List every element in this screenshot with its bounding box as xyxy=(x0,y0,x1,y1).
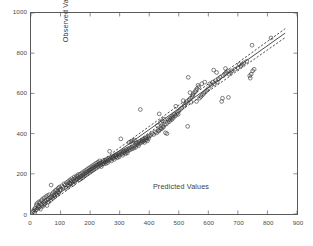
data-point xyxy=(215,71,219,75)
data-point xyxy=(195,100,199,104)
y-tick-label: 1000 xyxy=(13,9,27,15)
y-tick-label: 400 xyxy=(16,131,27,137)
data-point xyxy=(49,183,53,187)
data-point xyxy=(250,43,254,47)
x-tick-label: 800 xyxy=(263,220,274,226)
x-tick-label: 700 xyxy=(233,220,244,226)
x-tick-label: 100 xyxy=(54,220,65,226)
plot-frame: Predicted Values Observed Values xyxy=(30,12,298,215)
data-point xyxy=(227,96,231,100)
y-tick-label: 200 xyxy=(16,171,27,177)
y-tick-label: 600 xyxy=(16,90,27,96)
x-tick-label: 300 xyxy=(114,220,125,226)
x-tick-label: 500 xyxy=(174,220,185,226)
scatter-plot-figure: Predicted Values Observed Values 0100200… xyxy=(0,0,313,246)
data-point xyxy=(203,80,207,84)
x-tick-label: 0 xyxy=(28,220,32,226)
x-tick-label: 900 xyxy=(293,220,304,226)
y-tick-label: 0 xyxy=(23,212,27,218)
data-point xyxy=(108,149,112,153)
x-tick-label: 600 xyxy=(203,220,214,226)
data-point xyxy=(224,67,228,71)
y-tick-label: 800 xyxy=(16,49,27,55)
data-point xyxy=(157,112,161,116)
x-tick-label: 200 xyxy=(84,220,95,226)
data-point xyxy=(138,108,142,112)
data-point xyxy=(186,124,190,128)
x-tick-label: 400 xyxy=(144,220,155,226)
data-point xyxy=(248,76,252,80)
data-point xyxy=(119,137,123,141)
y-axis-title: Observed Values xyxy=(62,0,69,42)
x-axis-title: Predicted Values xyxy=(153,183,209,190)
data-point xyxy=(186,75,190,79)
